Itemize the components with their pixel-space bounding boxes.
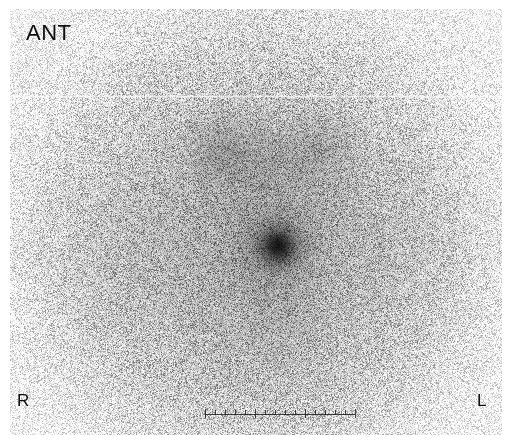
orientation-label-right: R — [17, 392, 29, 409]
scintigram-viewport: ANT R L — [0, 0, 508, 443]
orientation-label-anterior: ANT — [26, 22, 72, 44]
uptake-structures-layer — [10, 9, 502, 435]
scan-field — [10, 9, 502, 435]
orientation-label-left: L — [477, 392, 486, 409]
